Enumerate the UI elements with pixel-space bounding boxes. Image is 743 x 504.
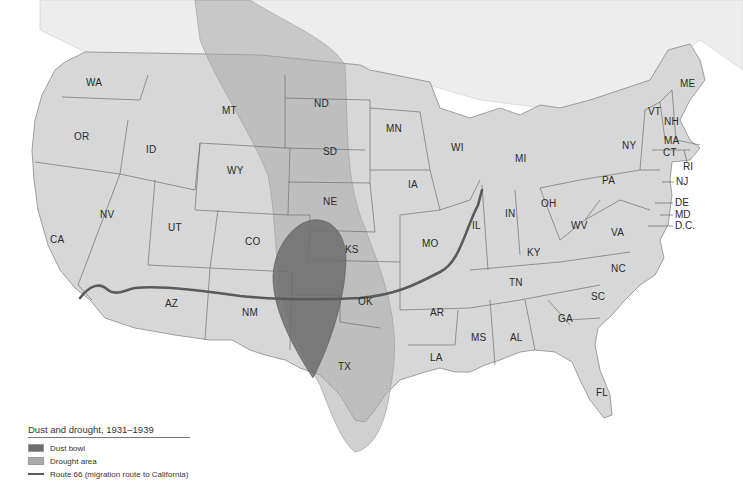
state-label-az: AZ — [165, 299, 178, 309]
state-label-wi: WI — [451, 143, 464, 153]
state-label-va: VA — [611, 228, 624, 238]
dust-bowl-swatch-icon — [28, 444, 44, 452]
state-label-mt: MT — [222, 106, 237, 116]
state-label-mn: MN — [386, 124, 402, 134]
state-label-ne: NE — [323, 197, 337, 207]
state-label-ct: CT — [663, 148, 677, 158]
state-label-tx: TX — [338, 362, 351, 372]
state-label-ok: OK — [358, 297, 373, 307]
state-label-oh: OH — [541, 199, 556, 209]
state-label-vt: VT — [648, 107, 661, 117]
legend-title: Dust and drought, 1931–1939 — [28, 424, 190, 438]
state-label-co: CO — [245, 237, 260, 247]
callout-label-nj: NJ — [676, 177, 688, 187]
state-label-ar: AR — [430, 308, 444, 318]
callout-label-de: DE — [675, 198, 689, 208]
state-label-fl: FL — [596, 388, 608, 398]
state-label-ny: NY — [622, 141, 636, 151]
state-label-id: ID — [146, 145, 156, 155]
state-label-wy: WY — [227, 166, 244, 176]
state-label-ma: MA — [664, 136, 679, 146]
state-label-mi: MI — [515, 154, 527, 164]
state-label-pa: PA — [602, 176, 615, 186]
callout-label-ri: RI — [683, 162, 693, 172]
state-label-sd: SD — [323, 147, 337, 157]
state-label-mo: MO — [422, 239, 439, 249]
legend-item-drought-area: Drought area — [28, 455, 190, 467]
callout-label-dc: D.C. — [675, 221, 695, 231]
state-label-wv: WV — [571, 221, 588, 231]
state-label-in: IN — [505, 209, 515, 219]
legend-label: Dust bowl — [50, 444, 85, 453]
state-label-ky: KY — [527, 248, 541, 258]
state-label-al: AL — [510, 333, 523, 343]
state-label-me: ME — [680, 79, 695, 89]
legend-label: Drought area — [50, 457, 97, 466]
state-label-nv: NV — [100, 210, 114, 220]
state-label-sc: SC — [591, 292, 605, 302]
map-legend: Dust and drought, 1931–1939 Dust bowl Dr… — [28, 424, 190, 481]
state-label-ga: GA — [558, 314, 573, 324]
state-label-nc: NC — [611, 264, 626, 274]
state-label-nd: ND — [314, 99, 329, 109]
legend-label: Route 66 (migration route to California) — [50, 470, 188, 479]
state-label-nm: NM — [242, 308, 258, 318]
callout-label-md: MD — [675, 210, 691, 220]
state-label-ia: IA — [408, 180, 418, 190]
state-label-tn: TN — [509, 278, 523, 288]
state-label-nh: NH — [664, 117, 679, 127]
state-label-il: IL — [472, 221, 481, 231]
drought-area-swatch-icon — [28, 457, 44, 465]
state-label-ut: UT — [168, 223, 182, 233]
state-label-or: OR — [74, 132, 89, 142]
state-label-wa: WA — [86, 78, 102, 88]
state-label-la: LA — [430, 353, 443, 363]
state-label-ms: MS — [471, 333, 486, 343]
state-label-ca: CA — [50, 235, 64, 245]
legend-item-route-66: Route 66 (migration route to California) — [28, 468, 190, 480]
route-66-line-icon — [28, 473, 44, 475]
legend-item-dust-bowl: Dust bowl — [28, 442, 190, 454]
state-label-ks: KS — [345, 245, 359, 255]
